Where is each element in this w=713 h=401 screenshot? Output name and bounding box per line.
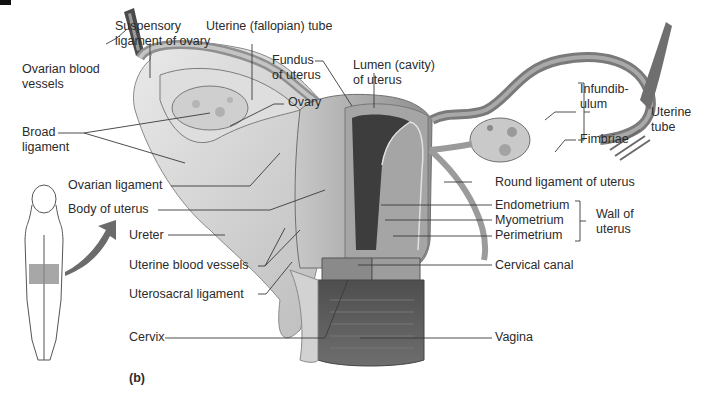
label-lumen-of-uterus: Lumen (cavity) of uterus [353,58,435,88]
label-uterine-fallopian-tube: Uterine (fallopian) tube [206,19,332,34]
uterus-shape [295,94,432,268]
left-ovary-shape [172,86,248,130]
right-uterine-tube-shape [432,22,672,160]
label-ovary: Ovary [288,95,321,110]
vagina-shape [290,270,424,366]
pelvis-highlight [29,264,59,284]
label-cervical-canal: Cervical canal [495,258,574,273]
panel-label: (b) [129,371,145,386]
label-uterine-blood-vessels: Uterine blood vessels [129,258,249,273]
label-ovarian-blood-vessels: Ovarian blood vessels [22,62,100,92]
label-ureter: Ureter [129,228,164,243]
uterus-anatomy-diagram: Suspensory ligament of ovary Uterine (fa… [0,0,713,401]
label-broad-ligament: Broad ligament [22,125,69,155]
label-wall-of-uterus-group: Wall of uterus [596,207,634,237]
label-suspensory-ligament: Suspensory ligament of ovary [115,19,210,49]
label-fimbriae: Fimbriae [580,132,629,147]
label-myometrium: Myometrium [495,213,564,228]
label-cervix: Cervix [129,330,164,345]
label-perimetrium: Perimetrium [495,228,562,243]
label-body-of-uterus: Body of uterus [68,202,149,217]
label-uterosacral-ligament: Uterosacral ligament [129,287,244,302]
label-fundus-of-uterus: Fundus of uterus [272,53,321,83]
label-round-ligament: Round ligament of uterus [495,175,635,190]
label-ovarian-ligament: Ovarian ligament [68,178,163,193]
label-infundibulum: Infundib- ulum [580,82,629,112]
label-endometrium: Endometrium [495,198,569,213]
label-uterine-tube-group: Uterine tube [651,105,691,135]
right-ovary-shape [470,118,530,162]
label-vagina: Vagina [495,330,533,345]
orientation-arrow-icon [65,220,116,276]
